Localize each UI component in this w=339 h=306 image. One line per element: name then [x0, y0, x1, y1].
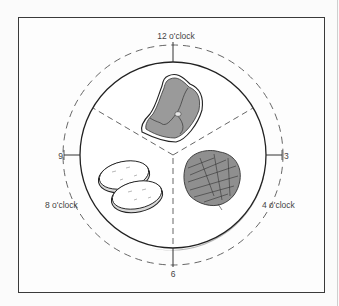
label-4-oclock: 4 o'clock [262, 200, 296, 210]
label-8-oclock: 8 o'clock [45, 200, 79, 210]
label-3: 3 [284, 151, 289, 161]
label-9: 9 [58, 151, 63, 161]
label-6: 6 [171, 269, 176, 279]
label-12-oclock: 12 o'clock [157, 31, 195, 41]
plate-diagram: 12 o'clock 3 6 9 8 o'clock 4 o'clock [0, 0, 339, 306]
